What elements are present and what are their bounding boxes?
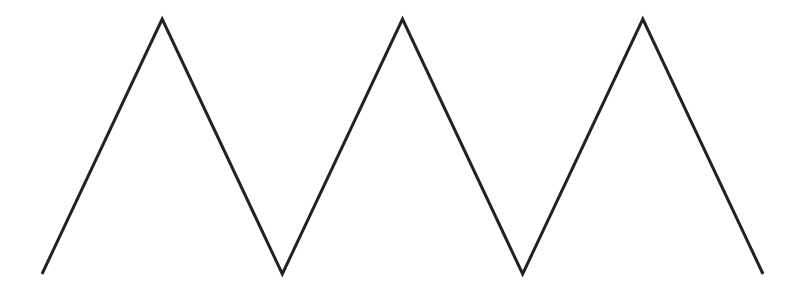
zigzag-polyline [42,19,763,274]
zigzag-diagram [0,0,800,295]
zigzag-line [42,19,763,274]
